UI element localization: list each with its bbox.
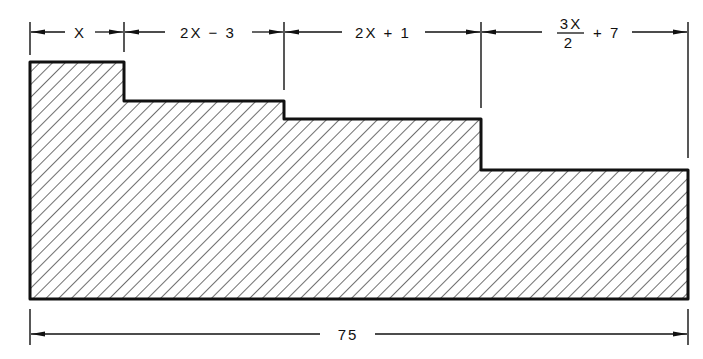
dimension-label-x: X xyxy=(74,24,86,41)
fraction-suffix: + 7 xyxy=(593,24,620,41)
dimension-label-total: 75 xyxy=(338,326,359,343)
dimension-label-2x-plus-1: 2X + 1 xyxy=(355,24,411,41)
dimension-label-fraction: 3X 2 + 7 xyxy=(557,15,620,51)
extension-lines-bottom xyxy=(30,309,688,345)
stepped-section-diagram: X 2X − 3 2X + 1 3X 2 + 7 75 xyxy=(0,0,703,359)
fraction-numerator: 3X xyxy=(560,15,582,32)
hatched-profile xyxy=(30,62,688,299)
dimension-label-2x-minus-3: 2X − 3 xyxy=(180,24,236,41)
fraction-denominator: 2 xyxy=(564,34,574,51)
